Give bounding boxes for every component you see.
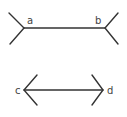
fin-b-icon	[105, 13, 118, 44]
label-c: c	[15, 85, 21, 96]
label-d: d	[107, 85, 113, 96]
label-a: a	[27, 15, 33, 26]
muller-lyer-diagram: a b c d	[0, 0, 127, 117]
fin-a-icon	[9, 13, 24, 44]
top-figure: a b	[9, 13, 118, 44]
bottom-figure: c d	[15, 75, 113, 105]
label-b: b	[95, 15, 101, 26]
